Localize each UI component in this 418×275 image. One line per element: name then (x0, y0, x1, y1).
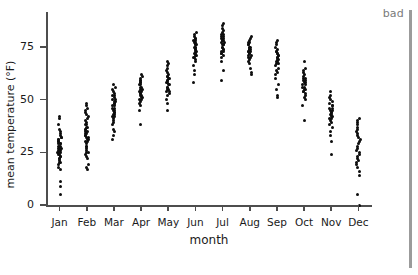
y-axis-tick-label: 0 (0, 199, 34, 210)
data-point (277, 67, 280, 70)
data-point (59, 185, 62, 188)
data-point (59, 168, 62, 171)
data-point (220, 79, 223, 82)
data-point (356, 193, 359, 196)
data-point (330, 140, 333, 143)
y-axis-tick-label: 75 (0, 41, 34, 52)
data-point (86, 107, 89, 110)
data-point (275, 88, 278, 91)
data-point (303, 119, 306, 122)
data-point (303, 60, 306, 63)
data-point (328, 107, 331, 110)
data-point (250, 71, 253, 74)
data-point (301, 104, 304, 107)
data-point (165, 98, 168, 101)
data-point (329, 90, 332, 93)
y-axis-tick (40, 46, 46, 48)
data-point (277, 83, 280, 86)
data-point (358, 170, 361, 173)
data-point (222, 69, 225, 72)
x-axis-line (46, 205, 372, 207)
data-point (59, 193, 62, 196)
y-axis-tick (40, 152, 46, 154)
data-point (358, 117, 361, 120)
data-point (220, 60, 223, 63)
data-point (57, 123, 60, 126)
x-axis-tick (330, 205, 332, 211)
data-point (112, 128, 115, 131)
x-axis-tick (222, 205, 224, 211)
data-point (57, 166, 60, 169)
data-point (329, 130, 332, 133)
x-axis-title: month (46, 233, 372, 247)
annotation-bad-label: bad (383, 8, 404, 20)
data-point (274, 77, 277, 80)
x-axis-tick (59, 205, 61, 211)
x-axis-tick (303, 205, 305, 211)
data-point (166, 109, 169, 112)
x-axis-tick (358, 205, 360, 211)
right-vertical-rule (409, 10, 412, 268)
x-axis-tick (167, 205, 169, 211)
data-point (192, 81, 195, 84)
data-point (195, 31, 198, 34)
x-axis-tick-label: Dec (338, 216, 378, 228)
data-point (249, 67, 252, 70)
data-point (330, 153, 333, 156)
data-point (59, 180, 62, 183)
data-point (358, 174, 361, 177)
y-axis-tick (40, 204, 46, 206)
y-axis-tick-label: 25 (0, 146, 34, 157)
data-point (139, 123, 142, 126)
data-point (113, 107, 116, 110)
data-point (222, 22, 225, 25)
data-point (87, 136, 90, 139)
data-point (193, 69, 196, 72)
data-point (304, 67, 307, 70)
data-point (114, 86, 117, 89)
data-point (111, 138, 114, 141)
data-point (356, 166, 359, 169)
data-point (250, 35, 253, 38)
data-point (331, 126, 334, 129)
x-axis-tick (249, 205, 251, 211)
data-point (276, 39, 279, 42)
x-axis-tick (276, 205, 278, 211)
data-point (331, 107, 334, 110)
data-point (166, 102, 169, 105)
y-axis-tick (40, 99, 46, 101)
x-axis-tick (86, 205, 88, 211)
x-axis-tick (140, 205, 142, 211)
y-axis-title: mean temperature (°F) (4, 60, 17, 190)
data-point (193, 73, 196, 76)
y-axis-tick-label: 50 (0, 94, 34, 105)
x-axis-tick (113, 205, 115, 211)
x-axis-tick (195, 205, 197, 211)
data-point (58, 115, 61, 118)
data-point (85, 166, 88, 169)
data-point (329, 94, 332, 97)
plot-area (47, 12, 372, 205)
data-point (329, 134, 332, 137)
chart-figure: bad mean temperature (°F) month 0255075J… (0, 0, 418, 275)
data-point (112, 134, 115, 137)
data-point (138, 109, 141, 112)
data-point (192, 64, 195, 67)
